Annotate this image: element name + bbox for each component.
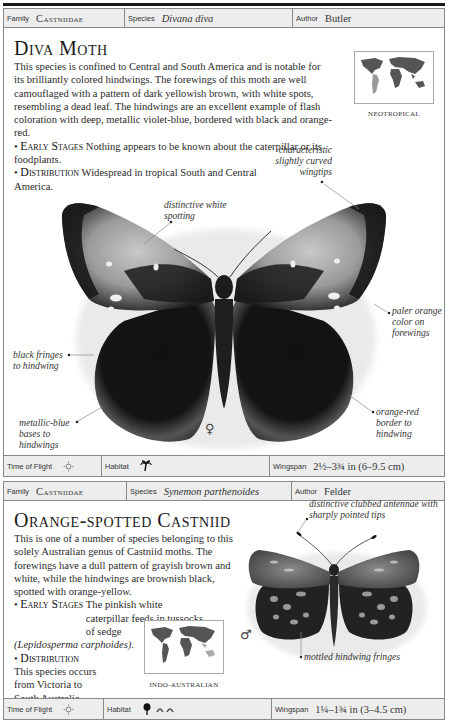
wingspan-value: 1¼–1¾ in (3–4.5 cm) — [315, 704, 406, 715]
entry-orange-spotted-castniid: Family Castniidae Species Synemon parthe… — [3, 481, 445, 720]
annotation-wingtips: characteristic slightly curved wingtips — [262, 144, 332, 177]
annotation-black-fringes: black fringes to hindwing — [13, 349, 68, 371]
wingspan-cell: Wingspan 2½–3¾ in (6–9.5 cm) — [270, 456, 444, 476]
time-of-flight-cell: Time of Flight — [4, 699, 104, 719]
entry-footer: Time of Flight Habitat Wingspan 1¼–1¾ in… — [4, 698, 444, 719]
male-symbol: ♂ — [240, 627, 252, 642]
time-of-flight-label: Time of Flight — [7, 462, 52, 471]
habitat-label: Habitat — [105, 462, 129, 471]
grass-tussock-icon — [156, 705, 176, 713]
tree-icon — [142, 703, 152, 715]
annotation-metallic-blue: metallic-blue bases to hindwings — [19, 417, 77, 450]
sun-icon — [63, 704, 74, 715]
sun-icon — [63, 461, 74, 472]
wingspan-label: Wingspan — [275, 705, 308, 714]
wingspan-value: 2½–3¾ in (6–9.5 cm) — [313, 461, 404, 472]
annotation-orange-red-border: orange-red border to hindwing — [376, 406, 436, 439]
time-of-flight-label: Time of Flight — [7, 705, 52, 714]
habitat-label: Habitat — [107, 705, 131, 714]
entry-footer: Time of Flight Habitat Wingspan 2½–3¾ in… — [4, 455, 444, 476]
annotation-mottled-fringes: mottled hindwing fringes — [304, 651, 444, 662]
female-symbol: ♀ — [205, 421, 215, 436]
wingspan-label: Wingspan — [273, 462, 306, 471]
entry-diva-moth: Family Castniidae Species Divana diva Au… — [3, 8, 445, 477]
time-of-flight-cell: Time of Flight — [4, 456, 102, 476]
palm-tree-icon — [140, 460, 152, 472]
wingspan-cell: Wingspan 1¼–1¾ in (3–4.5 cm) — [272, 699, 444, 719]
annotation-white-spotting: distinctive white spotting — [164, 199, 244, 221]
habitat-cell: Habitat — [102, 456, 270, 476]
top-rule — [3, 3, 445, 6]
annotation-clubbed-antennae: distinctive clubbed antennae with sharpl… — [309, 498, 439, 520]
habitat-cell: Habitat — [104, 699, 272, 719]
annotation-paler-orange: paler orange color on forewings — [392, 305, 444, 338]
